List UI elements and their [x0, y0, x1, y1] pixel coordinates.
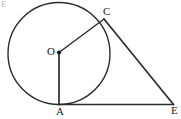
vertex-label-O: O: [47, 46, 55, 57]
vertex-label-E: E: [171, 105, 178, 116]
geometry-canvas: [0, 0, 181, 119]
vertex-label-A: A: [56, 106, 64, 117]
segment-radius-OC: [59, 19, 104, 53]
center-point-dot: [57, 50, 61, 54]
geometry-figure: E C O A E: [0, 0, 181, 119]
segment-tangent-CE: [104, 19, 174, 105]
vertex-label-C: C: [103, 6, 110, 17]
